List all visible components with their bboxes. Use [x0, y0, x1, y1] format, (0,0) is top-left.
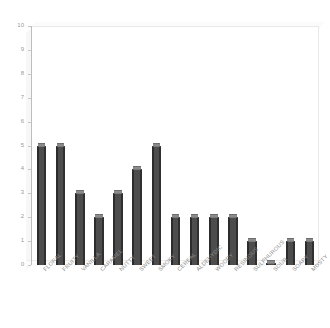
bar-slot — [94, 26, 104, 265]
bar-top-face — [57, 143, 65, 146]
y-axis-tick-mark — [28, 217, 31, 218]
y-axis-tick-label: 10 — [17, 21, 24, 30]
y-axis-tick-mark — [28, 265, 31, 266]
bar-slot — [305, 26, 315, 265]
y-axis-tick: 1 — [0, 241, 31, 242]
bar-top-face — [191, 214, 199, 217]
bar-top-face — [210, 214, 218, 217]
y-axis-tick: 6 — [0, 122, 31, 123]
y-axis-tick: 8 — [0, 74, 31, 75]
bar-slot — [286, 26, 296, 265]
bar-slot — [247, 26, 257, 265]
bar-top-face — [95, 214, 103, 217]
bar-series — [32, 26, 319, 265]
bar-slot — [132, 26, 142, 265]
y-axis-tick-mark — [28, 122, 31, 123]
y-axis-tick-label: 3 — [21, 188, 24, 197]
y-axis-tick: 9 — [0, 50, 31, 51]
y-axis-tick-mark — [28, 98, 31, 99]
y-axis-tick: 7 — [0, 98, 31, 99]
y-axis-tick-mark — [28, 169, 31, 170]
y-axis-tick-label: 5 — [21, 141, 24, 150]
bar-top-face — [172, 214, 180, 217]
bar-slot — [266, 26, 276, 265]
bar-slot — [75, 26, 85, 265]
bar-slot — [209, 26, 219, 265]
bar-top-face — [306, 238, 314, 241]
y-axis-tick-label: 6 — [21, 117, 24, 126]
bar-top-face — [248, 238, 256, 241]
y-axis-tick-label: 7 — [21, 93, 24, 102]
bar-slot — [56, 26, 66, 265]
y-axis-tick: 3 — [0, 193, 31, 194]
bar[interactable] — [132, 169, 142, 265]
y-axis-tick-mark — [28, 74, 31, 75]
y-axis-tick: 10 — [0, 26, 31, 27]
bar[interactable] — [56, 146, 66, 266]
y-axis-tick-mark — [28, 50, 31, 51]
y-axis-tick-mark — [28, 241, 31, 242]
y-axis-tick: 2 — [0, 217, 31, 218]
bar-slot — [190, 26, 200, 265]
y-axis-tick-label: 4 — [21, 164, 24, 173]
bar[interactable] — [152, 146, 162, 266]
x-axis-labels: FLORALFRUITYVANILLACARAMELNUTTYSWEETSMOK… — [32, 266, 319, 326]
y-axis-tick-label: 0 — [21, 260, 24, 269]
y-axis-tick: 5 — [0, 146, 31, 147]
bar[interactable] — [37, 146, 47, 266]
bar-slot — [228, 26, 238, 265]
y-axis-tick: 0 — [0, 265, 31, 266]
bar-slot — [113, 26, 123, 265]
bar-top-face — [153, 143, 161, 146]
y-axis-tick-label: 9 — [21, 45, 24, 54]
y-axis-tick-mark — [28, 26, 31, 27]
bar-slot — [171, 26, 181, 265]
y-axis-tick-label: 8 — [21, 69, 24, 78]
bar-slot — [152, 26, 162, 265]
y-axis-tick-label: 1 — [21, 236, 24, 245]
bar-top-face — [76, 190, 84, 193]
bar-top-face — [114, 190, 122, 193]
bar-top-face — [287, 238, 295, 241]
bar-top-face — [229, 214, 237, 217]
y-axis-tick-label: 2 — [21, 212, 24, 221]
y-axis-tick: 4 — [0, 169, 31, 170]
bar-slot — [37, 26, 47, 265]
bar-top-face — [38, 143, 46, 146]
bar-top-face — [133, 166, 141, 169]
y-axis-tick-mark — [28, 146, 31, 147]
y-axis-tick-mark — [28, 193, 31, 194]
